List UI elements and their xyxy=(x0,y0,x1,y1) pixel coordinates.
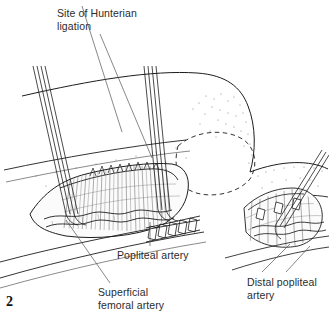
label-distal-popliteal-artery: Distal popliteal artery xyxy=(247,276,317,301)
label-hunterian-ligation: Site of Hunterian ligation xyxy=(57,7,137,32)
illustration-canvas xyxy=(0,0,329,318)
surgical-figure: Site of Hunterian ligation Popliteal art… xyxy=(0,0,329,318)
label-superficial-femoral-artery: Superficial femoral artery xyxy=(98,286,164,311)
label-popliteal-artery: Popliteal artery xyxy=(117,249,189,262)
figure-number: 2 xyxy=(6,294,13,310)
